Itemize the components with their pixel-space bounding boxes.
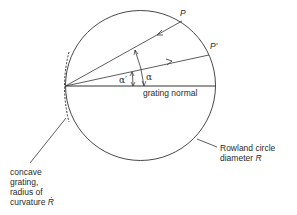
rowland-diameter-text: diameter <box>220 153 255 163</box>
rowland-line-2: diameter R <box>220 153 275 163</box>
label-alpha: α <box>146 72 152 82</box>
alpha-arc <box>135 50 144 86</box>
grating-curvature-text: curvature <box>10 197 48 207</box>
label-p-prime: P′ <box>210 41 217 51</box>
grating-r-symbol: Ṙ <box>48 197 54 207</box>
label-p: P <box>180 8 186 18</box>
diffracted-ray <box>66 55 210 86</box>
label-alpha-prime: α′ <box>119 75 127 85</box>
grating-leader-line <box>30 118 66 163</box>
label-rowland-circle: Rowland circle diameter R <box>220 143 275 163</box>
label-concave-grating: concave grating, radius of curvature Ṙ <box>10 167 54 207</box>
rowland-leader-line <box>197 139 217 147</box>
grating-line-2: grating, <box>10 177 54 187</box>
label-grating-normal: grating normal <box>143 88 197 98</box>
rowland-line-1: Rowland circle <box>220 143 275 153</box>
rowland-r-symbol: R <box>255 153 261 163</box>
grating-line-1: concave <box>10 167 54 177</box>
grating-line-4: curvature Ṙ <box>10 197 54 207</box>
grating-line-3: radius of <box>10 187 54 197</box>
